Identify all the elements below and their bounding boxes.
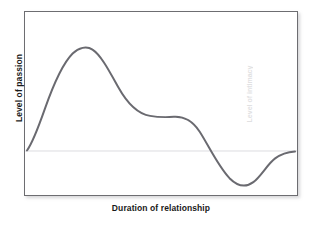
chart-figure: Level of passion Duration of relationshi… bbox=[0, 0, 317, 233]
right-edge-cropped-label: Level of intimacy bbox=[246, 34, 253, 154]
passion-curve-path bbox=[27, 48, 295, 186]
plot-area bbox=[24, 11, 298, 196]
passion-curve-svg bbox=[25, 12, 297, 195]
x-axis-title: Duration of relationship bbox=[24, 203, 298, 213]
y-axis-title: Level of passion bbox=[14, 18, 24, 158]
